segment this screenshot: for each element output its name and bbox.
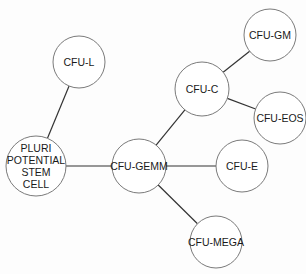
node-label: CFU-EOS [256,112,303,124]
diagram-canvas: PLURIPOTENTIALSTEMCELLCFU-LCFU-GEMMCFU-C… [0,0,306,274]
nodes-layer: PLURIPOTENTIALSTEMCELLCFU-LCFU-GEMMCFU-C… [6,9,306,268]
node-label: CFU-E [226,160,258,172]
node-label: CFU-C [186,83,219,95]
node-label: PLURI [21,142,52,154]
stem-cell-lineage-diagram: PLURIPOTENTIALSTEMCELLCFU-LCFU-GEMMCFU-C… [0,0,306,274]
node-cfu-gemm: CFU-GEMM [110,139,168,193]
edge-cfu-gemm-to-cfu-mega [158,185,197,224]
node-cfu-c: CFU-C [175,62,229,116]
node-cfu-eos: CFU-EOS [254,92,306,144]
edge-cfu-c-to-cfu-eos [227,98,255,109]
node-cfu-gm: CFU-GM [244,9,296,61]
node-label: CELL [23,178,49,190]
node-label: CFU-GEMM [110,160,168,172]
node-label: CFU-L [64,56,95,68]
node-label: CFU-MEGA [188,236,244,248]
node-cfu-mega: CFU-MEGA [188,216,244,268]
node-label: STEM [21,166,50,178]
edge-pluri-to-cfu-l [47,86,69,138]
node-cfu-e: CFU-E [216,140,268,192]
node-cfu-l: CFU-L [53,36,105,88]
node-pluri: PLURIPOTENTIALSTEMCELL [6,136,66,196]
edge-cfu-c-to-cfu-gm [223,51,249,72]
node-label: CFU-GM [249,29,291,41]
node-label: POTENTIAL [7,154,66,166]
edge-cfu-gemm-to-cfu-c [156,110,185,145]
